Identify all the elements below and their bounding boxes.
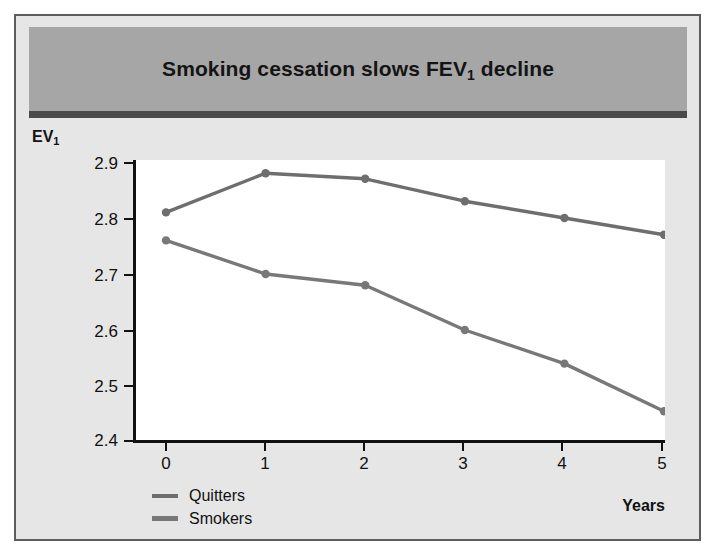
legend-label-smokers: Smokers — [189, 510, 252, 528]
series-line-smokers — [166, 240, 664, 411]
data-point — [162, 236, 170, 244]
x-tick-label-4: 4 — [547, 454, 577, 474]
x-tick-label-3: 3 — [448, 454, 478, 474]
y-axis-title: EV1 — [32, 128, 59, 146]
x-tick-mark-3 — [462, 442, 464, 451]
x-axis-title: Years — [622, 497, 665, 515]
page-title: Smoking cessation slows FEV1 decline — [162, 57, 554, 81]
x-axis-line — [133, 440, 665, 443]
x-tick-mark-4 — [561, 442, 563, 451]
data-point — [261, 270, 269, 278]
x-tick-mark-5 — [661, 442, 663, 451]
x-tick-label-2: 2 — [349, 454, 379, 474]
legend-item-quitters: Quitters — [152, 484, 252, 507]
x-tick-mark-0 — [165, 442, 167, 451]
series-markers-quitters — [162, 169, 665, 239]
title-suffix: decline — [475, 57, 554, 80]
y-axis-title-subscript: 1 — [53, 135, 59, 147]
y-tick-label-2: 2.7 — [58, 266, 118, 286]
y-tick-label-5: 2.4 — [58, 431, 118, 451]
series-line-quitters — [166, 173, 664, 235]
chart-svg — [135, 160, 665, 442]
data-point — [560, 214, 568, 222]
x-tick-label-0: 0 — [151, 454, 181, 474]
legend-swatch-smokers — [152, 516, 178, 521]
data-point — [361, 281, 369, 289]
figure-panel: Smoking cessation slows FEV1 decline EV1… — [14, 14, 701, 541]
x-tick-mark-1 — [264, 442, 266, 451]
data-point — [461, 326, 469, 334]
x-tick-label-5: 5 — [647, 454, 677, 474]
x-tick-label-1: 1 — [250, 454, 280, 474]
y-tick-label-3: 2.6 — [58, 322, 118, 342]
data-point — [162, 208, 170, 216]
data-point — [261, 169, 269, 177]
y-axis-line — [133, 160, 136, 443]
data-point — [361, 175, 369, 183]
y-tick-label-4: 2.5 — [58, 377, 118, 397]
title-subscript: 1 — [467, 67, 475, 83]
title-prefix: Smoking cessation slows FEV — [162, 57, 467, 80]
chart-legend: Quitters Smokers — [152, 484, 252, 530]
data-point — [461, 197, 469, 205]
y-axis-title-prefix: EV — [32, 128, 53, 145]
legend-label-quitters: Quitters — [189, 487, 245, 505]
title-band: Smoking cessation slows FEV1 decline — [29, 27, 687, 111]
y-tick-label-1: 2.8 — [58, 210, 118, 230]
y-tick-label-0: 2.9 — [58, 154, 118, 174]
legend-item-smokers: Smokers — [152, 507, 252, 530]
data-point — [560, 359, 568, 367]
title-divider — [29, 111, 687, 118]
plot-area: EV1 2.9 2.8 2.7 2.6 2.5 2.4 0 1 — [16, 118, 703, 543]
x-tick-mark-2 — [363, 442, 365, 451]
legend-swatch-quitters — [152, 494, 178, 498]
chart-canvas — [135, 160, 665, 442]
data-point — [660, 231, 665, 239]
